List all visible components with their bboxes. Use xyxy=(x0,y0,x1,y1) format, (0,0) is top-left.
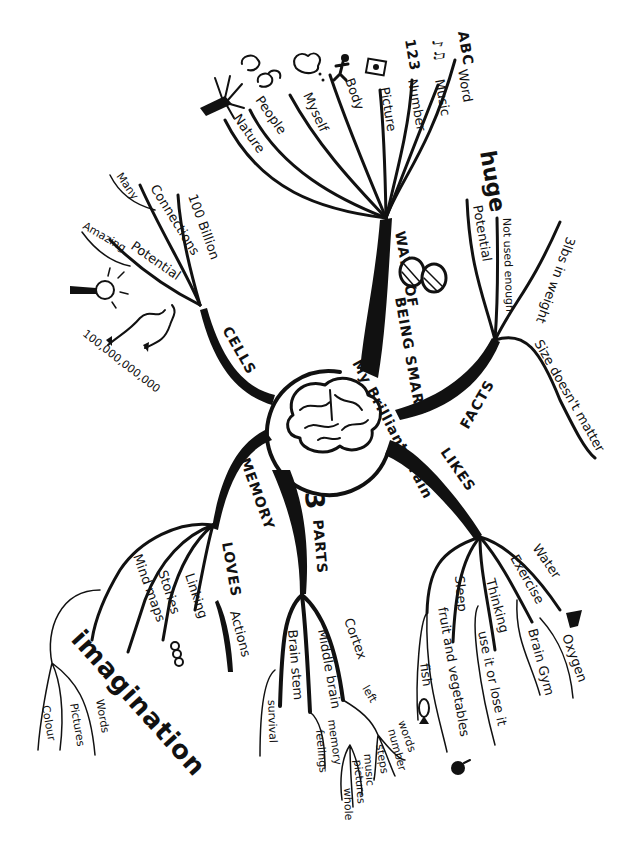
music-notes-icon: ♪♫ xyxy=(429,38,449,64)
branch-3-parts: 3 PARTS Cortex left words number steps m… xyxy=(260,470,419,821)
ways-body: Body xyxy=(342,76,367,112)
likes-fruit: fruit and vegetables xyxy=(435,606,473,738)
cortex-left: left xyxy=(359,683,380,706)
cup-icon xyxy=(566,610,582,628)
number-icon: 123 xyxy=(402,38,423,73)
ways-word: Word xyxy=(455,68,476,104)
apple-icon xyxy=(451,760,470,775)
likes-brain-gym: Brain Gym xyxy=(525,627,557,697)
faces-icon xyxy=(242,56,280,87)
branch-memory-loves: MEMORY LOVES Actions Linking Stories Min… xyxy=(38,430,278,782)
tree-icon xyxy=(200,76,244,118)
imagination-colour: Colour xyxy=(39,704,58,742)
neuron-icon xyxy=(106,305,175,352)
abc-icon: ABC xyxy=(455,30,477,67)
facts-weight: 3lbs in weight xyxy=(533,235,578,326)
ways-music: Music xyxy=(432,78,453,117)
person-icon xyxy=(334,54,349,80)
picture-icon xyxy=(366,59,386,76)
ways-people: People xyxy=(253,93,290,137)
thought-bubble-icon xyxy=(294,54,324,82)
memory-label: MEMORY xyxy=(237,456,278,532)
facts-size: Size doesn't matter xyxy=(531,337,608,455)
parts-cortex: Cortex xyxy=(341,616,370,662)
cortex-whole: whole xyxy=(341,788,355,821)
imagination-label: imagination xyxy=(66,624,213,782)
likes-fish: fish xyxy=(417,662,435,687)
parts-number: 3 xyxy=(299,490,331,512)
memory-linking: Linking xyxy=(182,571,211,620)
chain-icon xyxy=(171,642,183,666)
cells-count: 100,000,000,000 xyxy=(80,327,162,395)
branch-facts: FACTS huge Potential Not used enough 3lb… xyxy=(395,149,608,458)
mind-map-canvas: My Brilliant Brain WAYS OF BEING SMART A… xyxy=(0,0,637,863)
middle-feelings: feelings xyxy=(313,729,330,773)
loves-label: LOVES xyxy=(219,541,244,598)
ways-label-2: BEING SMART xyxy=(392,296,428,416)
lightbulb-icon xyxy=(70,268,128,308)
facts-not-used-enough: Not used enough xyxy=(500,218,516,313)
imagination-words: Words xyxy=(93,698,112,734)
parts-brain-stem: Brain stem xyxy=(285,629,306,701)
ways-myself: Myself xyxy=(300,90,331,135)
fish-icon xyxy=(419,699,429,724)
cells-potential: Potential xyxy=(128,238,183,283)
branch-likes: LIKES Water Exercise Brain Gym Oxygen Th… xyxy=(385,440,590,775)
cells-amazing: Amazing xyxy=(81,219,129,254)
parts-label: PARTS xyxy=(310,519,331,575)
likes-sleep: Sleep xyxy=(452,575,470,612)
branch-cells: CELLS 100 Billion Connections Many Poten… xyxy=(70,170,275,405)
imagination-pictures: Pictures xyxy=(67,702,87,747)
stem-survival: survival xyxy=(265,700,279,744)
